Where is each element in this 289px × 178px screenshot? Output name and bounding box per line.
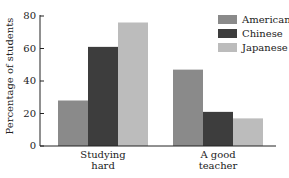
legend-label: Japanese: [242, 42, 288, 53]
y-axis-label: Percentage of students: [4, 25, 15, 135]
legend-label: Americans: [242, 14, 289, 25]
category-label-line: A good: [178, 149, 258, 160]
legend-label: Chinese: [242, 28, 283, 39]
legend-item-chinese: Chinese: [218, 28, 283, 38]
category-label-good-teacher: A good teacher: [178, 149, 258, 171]
legend-swatch: [218, 15, 237, 24]
bar-chinese: [203, 112, 233, 146]
y-tick-40: 40: [14, 75, 36, 86]
category-label-studying-hard: Studying hard: [63, 149, 143, 171]
bar-japanese: [233, 118, 263, 146]
bar-chart: Percentage of students 0 20 40 60 80 Stu…: [0, 0, 289, 178]
bar-japanese: [118, 23, 148, 147]
legend-swatch: [218, 29, 237, 38]
y-tick-20: 20: [14, 108, 36, 119]
bar-chinese: [88, 47, 118, 146]
y-tick-0: 0: [14, 140, 36, 151]
y-tick-60: 60: [14, 43, 36, 54]
y-tick-80: 80: [14, 10, 36, 21]
category-label-line: teacher: [178, 160, 258, 171]
category-label-line: Studying: [63, 149, 143, 160]
legend-swatch: [218, 43, 237, 52]
bar-americans: [173, 70, 203, 146]
category-label-line: hard: [63, 160, 143, 171]
legend-item-japanese: Japanese: [218, 42, 288, 52]
legend-item-americans: Americans: [218, 14, 289, 24]
bar-americans: [58, 101, 88, 147]
